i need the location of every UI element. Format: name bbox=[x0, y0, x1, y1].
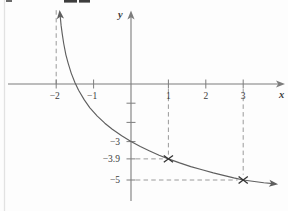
y-tick-label: −3 bbox=[110, 137, 120, 147]
x-tick-label: 1 bbox=[166, 91, 171, 101]
x-tick-label: 3 bbox=[241, 91, 246, 101]
function-graph: x y −2−1123−3−3.9−5 bbox=[0, 0, 288, 211]
x-axis-label: x bbox=[278, 89, 284, 100]
y-tick-label: −5 bbox=[110, 175, 120, 185]
x-tick-label: −2 bbox=[50, 91, 60, 101]
marked-points bbox=[164, 155, 248, 183]
cropped-text-artifact bbox=[79, 0, 90, 3]
axis-ticks bbox=[56, 80, 243, 181]
tick-labels: −2−1123−3−3.9−5 bbox=[50, 91, 246, 186]
cropped-text-artifact bbox=[6, 0, 12, 2]
cropped-text-artifact bbox=[64, 0, 77, 3]
page-artifacts bbox=[5, 0, 91, 211]
figure-page: x y −2−1123−3−3.9−5 bbox=[0, 0, 288, 211]
x-tick-label: −1 bbox=[87, 91, 97, 101]
y-tick-label: −3.9 bbox=[103, 154, 120, 164]
y-axis-label: y bbox=[116, 9, 123, 20]
point-marker-x bbox=[164, 155, 173, 162]
guide-lines bbox=[56, 10, 243, 180]
x-tick-label: 2 bbox=[203, 91, 208, 101]
